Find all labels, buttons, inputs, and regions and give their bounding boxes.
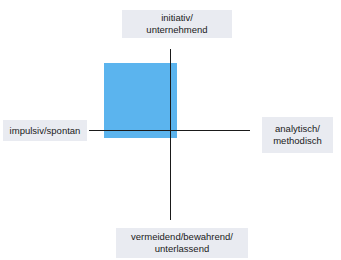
- axis-label-right-line1: analytisch/: [275, 123, 320, 135]
- axis-label-top: initiativ/ unternehmend: [122, 10, 232, 38]
- axis-label-left: impulsiv/spontan: [3, 120, 87, 141]
- axis-label-bottom-line2: unterlassend: [155, 243, 209, 255]
- axis-label-top-line1: initiativ/: [161, 12, 193, 24]
- vertical-axis-line: [170, 49, 171, 220]
- axis-label-right: analytisch/ methodisch: [262, 117, 333, 153]
- axis-label-bottom: vermeidend/bewahrend/ unterlassend: [116, 228, 248, 258]
- highlighted-quadrant-top-left: [104, 63, 177, 138]
- axis-label-top-line2: unternehmend: [146, 24, 207, 36]
- axis-label-left-line1: impulsiv/spontan: [10, 125, 81, 137]
- axis-label-right-line2: methodisch: [273, 135, 322, 147]
- axis-label-bottom-line1: vermeidend/bewahrend/: [131, 231, 233, 243]
